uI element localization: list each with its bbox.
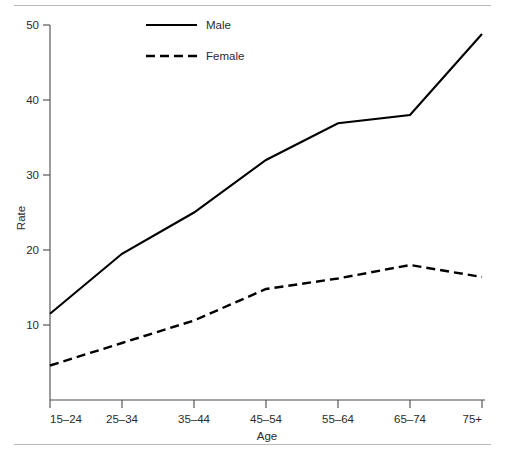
legend: Male Female	[146, 19, 244, 62]
figure-container: 1020304050 15–2425–3435–4445–5455–6465–7…	[0, 0, 505, 456]
x-tick-label: 55–64	[322, 413, 355, 425]
y-tick-label: 20	[26, 244, 39, 256]
x-tick-label: 75+	[462, 413, 482, 425]
line-chart: 1020304050 15–2425–3435–4445–5455–6465–7…	[0, 0, 505, 456]
x-tick-label: 45–54	[250, 413, 283, 425]
y-tick-label: 50	[26, 19, 39, 31]
x-tick-label: 25–34	[106, 413, 139, 425]
y-axis-ticks: 1020304050	[26, 19, 50, 331]
y-axis-title: Rate	[15, 206, 27, 230]
x-axis-ticks: 15–2425–3435–4445–5455–6465–7475+	[50, 400, 482, 425]
series-line-female	[50, 265, 482, 366]
x-tick-label: 65–74	[394, 413, 427, 425]
y-tick-label: 40	[26, 94, 39, 106]
y-tick-label: 10	[26, 319, 39, 331]
x-tick-label: 15–24	[50, 413, 83, 425]
y-tick-label: 30	[26, 169, 39, 181]
x-axis-title: Age	[257, 430, 277, 442]
series-line-male	[50, 34, 482, 314]
legend-label-female: Female	[206, 50, 244, 62]
x-tick-label: 35–44	[178, 413, 211, 425]
legend-label-male: Male	[206, 19, 231, 31]
